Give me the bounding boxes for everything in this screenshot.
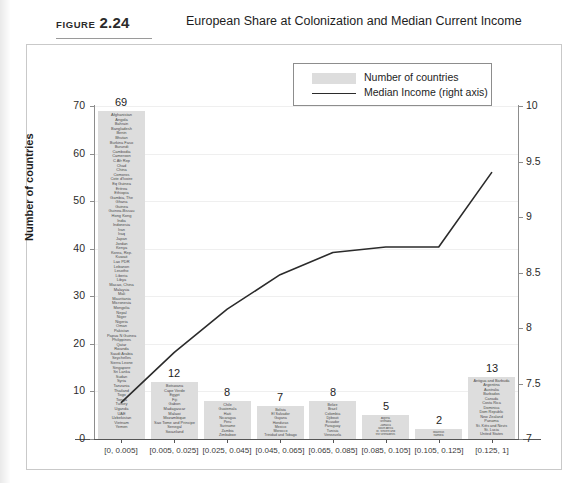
legend-line-income	[312, 93, 356, 94]
figure-header: FIGURE2.24 European Share at Colonizatio…	[56, 6, 566, 40]
figure-label-rule	[56, 38, 152, 39]
legend-swatch-bars	[312, 73, 356, 84]
page-gutter	[0, 0, 10, 483]
figure-label-number: 2.24	[100, 14, 130, 31]
chart-legend: Number of countries Median Income (right…	[293, 63, 492, 106]
median-income-polyline	[121, 173, 491, 403]
legend-label-bars: Number of countries	[364, 71, 459, 83]
figure-label: FIGURE2.24	[56, 14, 130, 32]
legend-label-income: Median Income (right axis)	[364, 86, 488, 98]
figure-label-word: FIGURE	[56, 19, 96, 30]
figure-title: European Share at Colonization and Media…	[186, 14, 522, 28]
line-series	[27, 45, 561, 469]
chart-frame: 010203040506070 77.588.599.510 [0, 0.005…	[26, 44, 562, 470]
